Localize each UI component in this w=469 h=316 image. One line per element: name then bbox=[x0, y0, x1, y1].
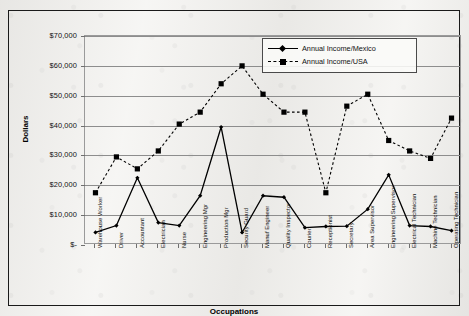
x-tick-mark bbox=[367, 244, 368, 248]
data-point-marker bbox=[449, 116, 454, 121]
x-tick-mark bbox=[262, 244, 263, 248]
x-tick-label: Manuf Engineer bbox=[264, 206, 270, 248]
x-tick-label: Electrician bbox=[160, 220, 166, 248]
chart-container: Dollars $70,000$60,000$50,000$40,000$30,… bbox=[8, 10, 460, 306]
data-point-marker bbox=[407, 148, 412, 153]
x-tick-mark bbox=[157, 244, 158, 248]
x-tick-label: Secretary bbox=[348, 222, 354, 248]
data-point-marker bbox=[114, 154, 119, 159]
data-point-marker bbox=[260, 92, 265, 97]
x-tick-label: Engineering Supervisor bbox=[390, 186, 396, 248]
data-point-marker bbox=[156, 148, 161, 153]
data-point-marker bbox=[344, 104, 349, 109]
legend-swatch-dashed-line bbox=[268, 57, 298, 67]
y-tick-mark bbox=[81, 155, 85, 156]
y-tick-label: $10,000 bbox=[7, 210, 77, 219]
legend-item-mexico: Annual Income/Mexico bbox=[268, 42, 411, 55]
data-point-marker bbox=[302, 110, 307, 115]
y-tick-label: $40,000 bbox=[7, 120, 77, 129]
x-tick-mark bbox=[94, 244, 95, 248]
scanned-page: Dollars $70,000$60,000$50,000$40,000$30,… bbox=[0, 0, 469, 316]
x-tick-label: Nurse bbox=[181, 232, 187, 248]
x-tick-label: Production Mgr bbox=[223, 207, 229, 248]
y-tick-label: $70,000 bbox=[7, 31, 77, 40]
data-point-marker bbox=[239, 63, 244, 68]
y-tick-mark bbox=[81, 185, 85, 186]
x-tick-mark bbox=[304, 244, 305, 248]
x-tick-label: Security Guard bbox=[243, 208, 249, 248]
y-tick-mark bbox=[81, 96, 85, 97]
x-tick-mark bbox=[220, 244, 221, 248]
x-tick-mark bbox=[451, 244, 452, 248]
x-axis-title: Occupations bbox=[9, 307, 459, 316]
x-tick-mark bbox=[115, 244, 116, 248]
y-tick-label: $20,000 bbox=[7, 180, 77, 189]
y-tick-label: $30,000 bbox=[7, 150, 77, 159]
y-tick-mark bbox=[81, 36, 85, 37]
x-tick-label: Area Supervisor bbox=[369, 205, 375, 248]
data-point-marker bbox=[198, 110, 203, 115]
chart-legend: Annual Income/Mexico Annual Income/USA bbox=[262, 38, 417, 73]
y-tick-label: $50,000 bbox=[7, 90, 77, 99]
x-tick-label: Engineering Mgr bbox=[202, 204, 208, 248]
x-tick-mark bbox=[409, 244, 410, 248]
x-tick-mark bbox=[325, 244, 326, 248]
legend-label-usa: Annual Income/USA bbox=[302, 57, 368, 66]
x-tick-mark bbox=[430, 244, 431, 248]
x-tick-label: Driver bbox=[118, 232, 124, 248]
x-tick-mark bbox=[199, 244, 200, 248]
y-tick-mark bbox=[81, 215, 85, 216]
y-tick-label: $- bbox=[7, 240, 77, 249]
data-point-marker bbox=[428, 156, 433, 161]
x-tick-label: Warehouse Worker bbox=[97, 197, 103, 248]
data-point-marker bbox=[135, 176, 139, 180]
data-point-marker bbox=[281, 110, 286, 115]
x-tick-label: Receptionist bbox=[327, 215, 333, 248]
series-line-2 bbox=[95, 66, 451, 193]
x-tick-label: Courier bbox=[306, 228, 312, 248]
data-point-marker bbox=[114, 223, 118, 227]
x-tick-mark bbox=[283, 244, 284, 248]
y-tick-mark bbox=[81, 66, 85, 67]
y-tick-mark bbox=[81, 126, 85, 127]
x-tick-mark bbox=[178, 244, 179, 248]
data-point-marker bbox=[323, 190, 328, 195]
series-line-1 bbox=[95, 127, 451, 232]
x-tick-label: Accountant bbox=[139, 218, 145, 248]
data-point-marker bbox=[386, 138, 391, 143]
x-tick-label: Quality Inspector bbox=[285, 203, 291, 248]
y-tick-label: $60,000 bbox=[7, 60, 77, 69]
x-tick-mark bbox=[241, 244, 242, 248]
y-tick-mark bbox=[81, 245, 85, 246]
data-point-marker bbox=[177, 121, 182, 126]
data-point-marker bbox=[93, 190, 98, 195]
data-point-marker bbox=[365, 92, 370, 97]
x-tick-label: Operating Technician bbox=[453, 192, 459, 248]
data-point-marker bbox=[219, 81, 224, 86]
legend-label-mexico: Annual Income/Mexico bbox=[302, 44, 376, 53]
data-point-marker bbox=[135, 166, 140, 171]
x-tick-mark bbox=[388, 244, 389, 248]
data-point-marker bbox=[219, 125, 223, 129]
x-tick-label: Electrical Technician bbox=[411, 194, 417, 248]
x-tick-label: Machine Technician bbox=[432, 195, 438, 248]
legend-swatch-solid-line bbox=[268, 44, 298, 54]
x-tick-mark bbox=[346, 244, 347, 248]
legend-item-usa: Annual Income/USA bbox=[268, 55, 411, 68]
x-tick-mark bbox=[136, 244, 137, 248]
